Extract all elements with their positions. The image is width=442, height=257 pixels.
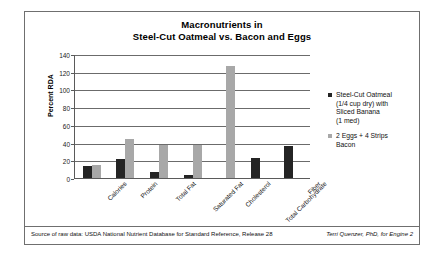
x-axis-label: Total Carbohydrate xyxy=(284,180,328,224)
legend-label-line: (1 med) xyxy=(336,117,420,126)
bar[interactable] xyxy=(159,145,168,178)
bar-group xyxy=(109,55,143,178)
bar-group xyxy=(276,55,310,178)
y-axis-tick-label: 0 xyxy=(66,176,70,183)
bar[interactable] xyxy=(116,159,125,178)
bar[interactable] xyxy=(284,146,293,178)
y-axis-tick xyxy=(71,179,74,180)
chart-frame: Macronutrients in Steel-Cut Oatmeal vs. … xyxy=(24,11,420,245)
y-axis-tick-label: 140 xyxy=(59,52,70,59)
y-axis-tick-label: 60 xyxy=(63,122,70,129)
bar[interactable] xyxy=(150,172,159,178)
y-axis-tick-label: 100 xyxy=(59,87,70,94)
x-axis-label: Cholesterol xyxy=(244,180,272,208)
y-axis-tick-label: 80 xyxy=(63,105,70,112)
legend-label-line: Bacon xyxy=(336,141,420,150)
y-axis-tick-label: 120 xyxy=(59,69,70,76)
bar-group xyxy=(75,55,109,178)
legend-label-line: 2 Eggs + 4 Strips xyxy=(336,132,420,141)
bar[interactable] xyxy=(184,175,193,178)
chart-title: Macronutrients in Steel-Cut Oatmeal vs. … xyxy=(25,19,419,42)
chart-title-line-2: Steel-Cut Oatmeal vs. Bacon and Eggs xyxy=(25,31,419,43)
x-axis-label: Calories xyxy=(106,180,128,202)
bar[interactable] xyxy=(251,158,260,178)
bar[interactable] xyxy=(226,66,235,178)
bar[interactable] xyxy=(193,145,202,178)
x-axis-label: Protein xyxy=(139,180,159,200)
y-axis-title: Percent RDA xyxy=(47,74,54,117)
legend-label-line: Sliced Banana xyxy=(336,108,420,117)
x-axis-line xyxy=(74,178,310,179)
legend-item[interactable]: Steel-Cut Oatmeal(1/4 cup dry) withSlice… xyxy=(328,91,420,125)
bar-group xyxy=(209,55,243,178)
bar-series-container xyxy=(75,55,310,178)
y-axis-tick-label: 20 xyxy=(63,158,70,165)
bar-group xyxy=(142,55,176,178)
legend-item[interactable]: 2 Eggs + 4 StripsBacon xyxy=(328,132,420,149)
y-axis-tick-label: 40 xyxy=(63,140,70,147)
chart-footer: Source of raw data: USDA National Nutrie… xyxy=(25,227,419,244)
plot-area: 020406080100120140 xyxy=(74,55,310,179)
bar-group xyxy=(176,55,210,178)
x-axis-label: Saturated Fat xyxy=(212,180,245,213)
footer-credit-text: Terri Quenzer, PhD, for Engine 2 xyxy=(326,231,413,237)
bar[interactable] xyxy=(83,166,92,178)
legend-label-line: Steel-Cut Oatmeal xyxy=(336,91,420,100)
bar[interactable] xyxy=(92,165,101,178)
bar-group xyxy=(243,55,277,178)
x-axis-label: Total Fat xyxy=(174,180,197,203)
bar[interactable] xyxy=(125,139,134,178)
legend-label-line: (1/4 cup dry) with xyxy=(336,100,420,109)
chart-page: Macronutrients in Steel-Cut Oatmeal vs. … xyxy=(0,0,442,257)
chart-title-line-1: Macronutrients in xyxy=(25,19,419,31)
chart-legend: Steel-Cut Oatmeal(1/4 cup dry) withSlice… xyxy=(328,91,420,157)
legend-swatch-icon xyxy=(328,93,332,97)
footer-source-text: Source of raw data: USDA National Nutrie… xyxy=(31,231,272,237)
legend-swatch-icon xyxy=(328,134,332,138)
